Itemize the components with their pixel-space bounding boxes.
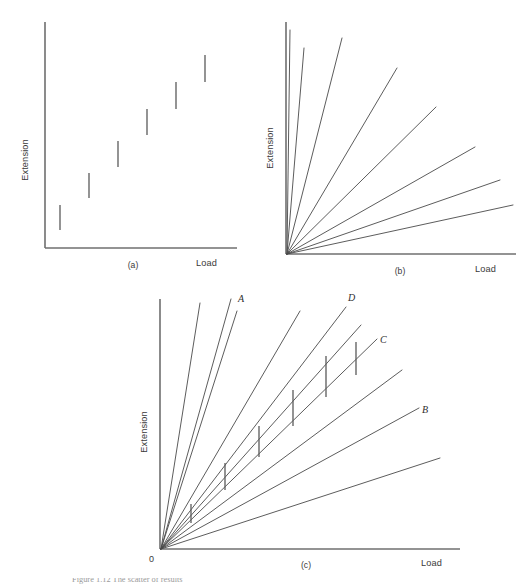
panel-b-xlabel: Load	[475, 264, 496, 274]
panel-b-ylabel: Extension	[265, 127, 275, 169]
panel-c-caption: (c)	[301, 560, 311, 570]
panel-c-label-C: C	[380, 334, 387, 345]
panel-c-ray-D	[161, 307, 346, 549]
panel-c-label-D: D	[347, 292, 356, 303]
panel-b-plot: Load Extension (b)	[262, 0, 524, 294]
panel-b: Load Extension (b)	[262, 0, 524, 294]
panel-a-caption: (a)	[128, 260, 139, 270]
panel-b-caption: (b)	[395, 266, 406, 276]
figure-caption-strip: Figure 1.12 The scatter of results	[0, 578, 524, 588]
panel-c-ray-C	[161, 339, 377, 549]
panel-a-ylabel: Extension	[20, 139, 30, 181]
panel-c-ray-2	[161, 299, 231, 549]
panel-c: A B C D 0 Load Extension (c)	[130, 285, 524, 588]
panel-a: Load Extension (a)	[0, 0, 262, 294]
figure-caption: Figure 1.12 The scatter of results	[72, 578, 183, 584]
figure-root: Load Extension (a) Load Extension	[0, 0, 524, 588]
panel-c-plot: A B C D 0 Load Extension (c)	[130, 285, 524, 588]
panel-a-xlabel: Load	[196, 258, 217, 268]
panel-c-ray-8	[161, 370, 402, 549]
panel-c-xlabel: Load	[421, 558, 442, 568]
panel-c-rays	[161, 299, 440, 549]
panel-b-rays	[287, 30, 513, 254]
panel-c-label-A: A	[237, 293, 245, 304]
panel-c-origin-label: 0	[149, 554, 154, 564]
panel-a-errorbars	[60, 55, 205, 230]
panel-c-ray-4	[161, 311, 300, 549]
panel-c-ray-10	[161, 458, 440, 549]
panel-c-label-B: B	[422, 404, 428, 415]
panel-c-ylabel: Extension	[139, 411, 149, 453]
panel-a-plot: Load Extension (a)	[0, 0, 262, 294]
